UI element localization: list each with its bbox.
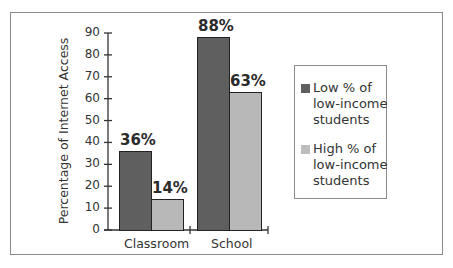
y-tick-label: 30 [80, 156, 100, 170]
x-tick-label: School [211, 236, 253, 251]
legend-label: Low % of low-income students [313, 80, 393, 128]
bar-classroom-low [119, 151, 152, 231]
y-axis-label: Percentage of Internet Access [56, 38, 71, 225]
x-tick-label: Classroom [124, 236, 189, 251]
y-tick-label: 40 [80, 134, 100, 148]
y-tick-label: 20 [80, 178, 100, 192]
y-tick-label: 90 [80, 25, 100, 39]
bar-classroom-high [151, 199, 184, 231]
bar-school-high [229, 92, 262, 231]
y-tick-label: 70 [80, 69, 100, 83]
legend: Low % of low-income students High % of l… [294, 65, 387, 199]
y-tick-label: 10 [80, 200, 100, 214]
bar-school-low [197, 37, 230, 231]
data-label: 88% [198, 17, 234, 35]
data-label: 14% [152, 179, 188, 197]
y-tick-label: 60 [80, 91, 100, 105]
y-tick-label: 0 [80, 222, 100, 236]
legend-swatch-light [301, 145, 310, 154]
y-tick-label: 80 [80, 47, 100, 61]
legend-swatch-dark [301, 84, 310, 93]
data-label: 36% [120, 131, 156, 149]
y-tick-label: 50 [80, 113, 100, 127]
data-label: 63% [230, 72, 266, 90]
legend-label: High % of low-income students [313, 141, 393, 189]
